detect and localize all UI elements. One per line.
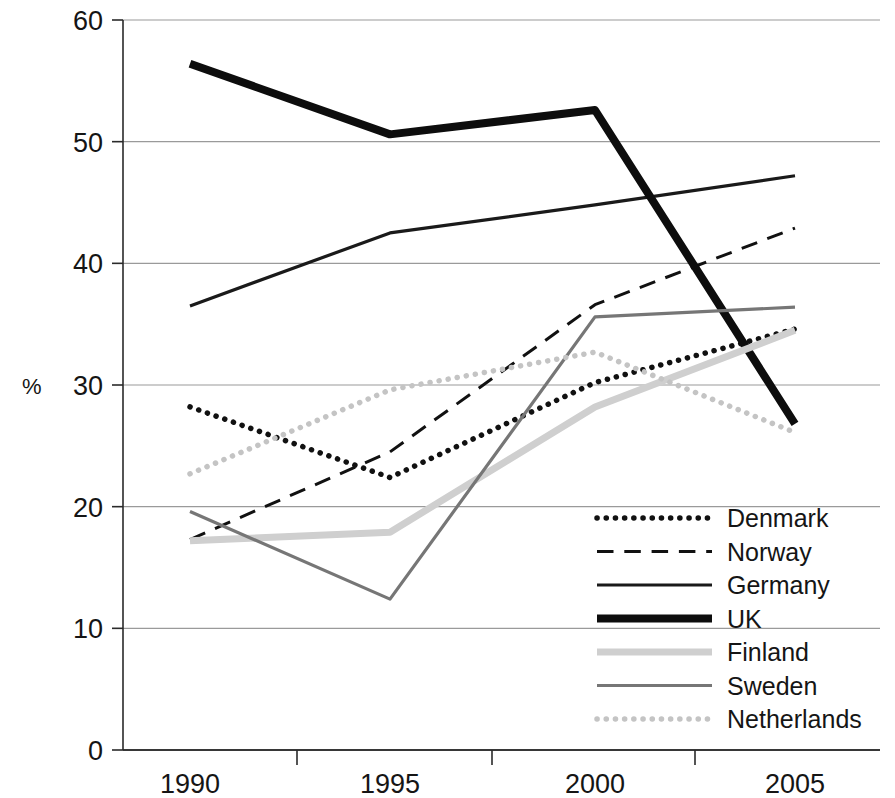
series-line-denmark	[190, 329, 795, 477]
line-chart: 0102030405060 1990199520002005 % Denmark…	[0, 0, 895, 798]
x-tick-label: 1990	[160, 769, 220, 798]
x-tick-label: 2000	[565, 769, 625, 798]
y-tick-label: 50	[73, 128, 103, 158]
data-series-group	[190, 64, 795, 599]
chart-container: 0102030405060 1990199520002005 % Denmark…	[0, 0, 895, 798]
y-tick-label: 40	[73, 249, 103, 279]
y-tick-label: 10	[73, 614, 103, 644]
y-tick-label: 20	[73, 493, 103, 523]
y-axis-tick-labels: 0102030405060	[73, 6, 103, 766]
legend-label-finland: Finland	[727, 638, 809, 666]
y-tick-marks	[112, 20, 123, 750]
legend-label-uk: UK	[727, 605, 762, 633]
chart-legend: DenmarkNorwayGermanyUKFinlandSwedenNethe…	[597, 504, 862, 733]
x-tick-marks	[297, 750, 695, 765]
x-tick-label: 1995	[360, 769, 420, 798]
legend-label-denmark: Denmark	[727, 504, 829, 532]
y-tick-label: 30	[73, 371, 103, 401]
x-axis-tick-labels: 1990199520002005	[160, 769, 825, 798]
y-tick-label: 60	[73, 6, 103, 36]
legend-label-netherlands: Netherlands	[727, 705, 862, 733]
y-axis-title: %	[22, 374, 42, 399]
y-tick-label: 0	[88, 736, 103, 766]
legend-label-germany: Germany	[727, 571, 830, 599]
legend-label-sweden: Sweden	[727, 672, 817, 700]
x-tick-label: 2005	[765, 769, 825, 798]
legend-label-norway: Norway	[727, 538, 812, 566]
